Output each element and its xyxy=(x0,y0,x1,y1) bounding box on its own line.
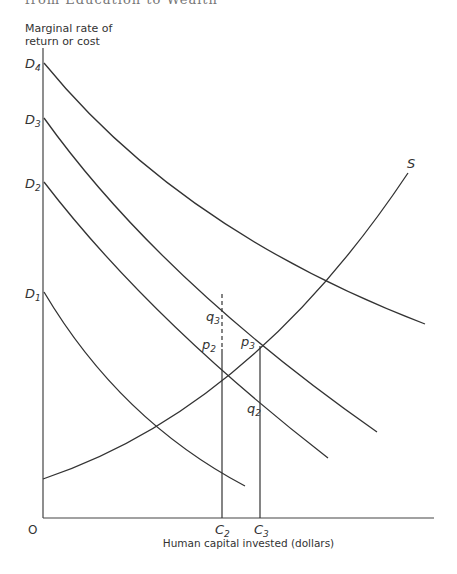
label-D3: D3 xyxy=(25,112,41,129)
label-p3: p3 xyxy=(240,334,255,351)
label-D2: D2 xyxy=(25,176,41,193)
label-D1: D1 xyxy=(25,286,41,303)
chart-canvas: D4 D3 D2 D1 S p2 p3 q2 q3 O C2 C3 xyxy=(0,0,457,574)
label-q2: q2 xyxy=(247,401,261,418)
curve-D4 xyxy=(44,63,425,324)
x-axis-label: Human capital invested (dollars) xyxy=(0,537,457,549)
origin-label: O xyxy=(28,523,37,537)
curve-D3 xyxy=(44,118,377,432)
label-p2: p2 xyxy=(201,337,216,354)
curve-D2 xyxy=(44,182,328,458)
label-D4: D4 xyxy=(25,56,41,73)
curve-S xyxy=(43,173,408,479)
label-S: S xyxy=(407,156,415,171)
label-q3: q3 xyxy=(206,309,220,326)
